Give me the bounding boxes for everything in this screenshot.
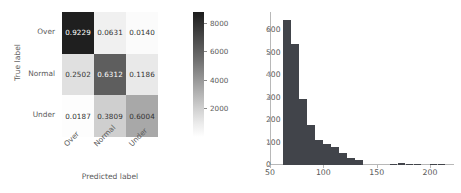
confusion-matrix-cell-value: 0.2502: [65, 71, 91, 78]
confusion-matrix-grid: 0.92290.06310.01400.25020.63120.11860.01…: [62, 12, 158, 137]
y-tick-label-over: Over: [0, 28, 55, 35]
histogram-x-tick-label: 50: [265, 169, 275, 177]
confusion-matrix-cell: 0.0631: [94, 12, 126, 54]
confusion-matrix-cell: 0.9229: [62, 12, 94, 54]
histogram-y-tick-mark: [267, 98, 270, 99]
histogram-x-tick-label: 200: [423, 169, 438, 177]
histogram-bar: [414, 164, 421, 165]
histogram-x-tick-label: 100: [316, 169, 331, 177]
y-tick-label-under: Under: [0, 111, 55, 118]
histogram-y-tick-mark: [267, 120, 270, 121]
histogram-bar: [323, 144, 330, 165]
histogram-x-tick-mark: [323, 165, 324, 168]
figure-canvas: True label Over Normal Under 0.92290.063…: [0, 0, 461, 193]
histogram-bar: [438, 164, 445, 165]
confusion-matrix-panel: True label Over Normal Under 0.92290.063…: [0, 0, 230, 193]
histogram-y-tick-mark: [267, 53, 270, 54]
confusion-matrix-x-axis-title: Predicted label: [62, 172, 158, 181]
confusion-matrix-cell-value: 0.9229: [65, 29, 91, 36]
histogram-x-tick-mark: [430, 165, 431, 168]
confusion-matrix-cell-value: 0.6312: [97, 71, 123, 78]
histogram-plot-area: [270, 12, 446, 165]
histogram-bar: [315, 140, 322, 165]
confusion-matrix-cell-value: 0.0140: [129, 29, 155, 36]
histogram-bar: [430, 164, 437, 165]
histogram-bar: [406, 164, 413, 165]
histogram-x-tick-label: 150: [369, 169, 384, 177]
histogram-y-tick-mark: [267, 30, 270, 31]
histogram-bar: [307, 125, 314, 165]
histogram-x-tick-mark: [270, 165, 271, 168]
y-tick-label-normal: Normal: [0, 70, 55, 77]
histogram-panel: 010020030040050060050100150200: [230, 0, 461, 193]
histogram-bar: [291, 44, 298, 166]
histogram-bar: [390, 164, 397, 165]
confusion-matrix-y-tick-labels: Over Normal Under: [0, 12, 58, 137]
colorbar-gradient: [193, 12, 204, 137]
confusion-matrix-cell-value: 0.1186: [129, 71, 155, 78]
histogram-x-tick-mark: [377, 165, 378, 168]
histogram-bar: [339, 153, 346, 165]
confusion-matrix-cell-value: 0.0631: [97, 29, 123, 36]
confusion-matrix-cell: 0.0187: [62, 95, 94, 137]
confusion-matrix-cell: 0.1186: [126, 54, 158, 96]
confusion-matrix-cell: 0.2502: [62, 54, 94, 96]
histogram-y-tick-mark: [267, 143, 270, 144]
histogram-bar: [398, 163, 405, 165]
confusion-matrix-cell-value: 0.0187: [65, 113, 91, 120]
confusion-matrix-cell: 0.0140: [126, 12, 158, 54]
histogram-bar: [299, 99, 306, 165]
histogram-bar: [347, 158, 354, 165]
histogram-bar: [283, 20, 290, 165]
histogram-y-tick-mark: [267, 75, 270, 76]
histogram-bar: [355, 160, 362, 165]
histogram-bar: [331, 147, 338, 165]
confusion-matrix-cell: 0.6312: [94, 54, 126, 96]
colorbar: 2000400060008000: [193, 12, 204, 137]
confusion-matrix-cell-value: 0.3809: [97, 113, 123, 120]
confusion-matrix-cell-value: 0.6004: [129, 113, 155, 120]
